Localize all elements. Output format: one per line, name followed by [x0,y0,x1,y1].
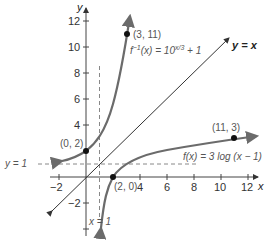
label-y-equals-x: y = x [232,40,257,51]
tick-y-10: 10 [68,42,80,53]
tick-y-8: 8 [74,68,80,79]
label-point-3-11: (3, 11) [133,30,161,40]
label-f: f(x) = 3 log (x − 1) [183,152,262,162]
point-3-11 [124,31,130,37]
label-asymptote-y: y = 1 [5,159,27,169]
label-point-0-2: (0, 2) [60,139,83,149]
tick-y-neg2: −2 [68,198,81,209]
label-asymptote-x: x = 1 [89,217,111,227]
label-point-2-0: (2, 0) [114,182,137,192]
point-2-0 [110,174,116,180]
label-point-11-3: (11, 3) [212,123,240,133]
tick-y-4: 4 [74,120,80,131]
tick-y-12: 12 [68,16,80,27]
graph-stage: y x −2 4 6 8 10 12 12 10 8 6 4 −2 (3, 11… [0,0,267,248]
point-11-3 [231,135,237,141]
point-0-2 [83,148,89,154]
tick-x-12: 12 [241,182,253,193]
tick-x-neg2: −2 [50,182,63,193]
tick-x-6: 6 [164,182,170,193]
tick-y-6: 6 [74,94,80,105]
label-f-inverse: f−1(x) = 10x/3 + 1 [130,44,201,56]
tick-x-8: 8 [191,182,197,193]
y-axis-label: y [77,2,83,13]
x-axis-label: x [258,181,264,192]
tick-x-4: 4 [137,182,143,193]
tick-x-10: 10 [214,182,226,193]
